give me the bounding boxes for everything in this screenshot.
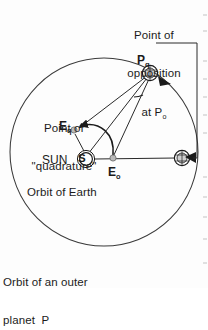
caption-opposition-line2: opposition [104,67,204,80]
sun-opposition-baseline [95,158,176,159]
scan-artifact [203,176,207,178]
earth-dot-opposition [110,155,116,161]
label-eq-subscript: q [67,126,72,135]
caption-point-of-opposition: Point of opposition at Po [104,3,204,145]
label-earth-opposition: Eo [108,166,121,179]
scan-artifact [203,60,207,62]
caption-orbit-of-earth: Orbit of Earth [27,186,97,199]
caption-opposition-subscript: o [162,113,166,121]
caption-outer-line2: planet P [3,314,153,327]
label-eo-subscript: o [116,172,121,181]
caption-opposition-line3: at Po [104,106,204,119]
scan-artifact [203,114,207,116]
scan-artifact [203,238,207,240]
caption-opposition-line1: Point of [104,29,204,42]
scan-artifact [203,216,207,218]
scan-artifact [203,196,207,198]
scan-artifact [203,14,207,16]
label-pq-letter: P [137,53,145,67]
label-sun-symbol: S [78,152,86,165]
label-eq-letter: E [59,119,67,133]
caption-opposition-prefix: at P [142,106,163,118]
label-eo-letter: E [108,165,116,179]
label-planet-quadrature: Pq [137,54,150,67]
caption-point-of-quadrature: Point of "quadrature" [24,96,104,199]
caption-outer-line1: Orbit of an outer [3,276,153,289]
label-sun-word: SUN [42,154,68,167]
label-earth-quadrature: Eq [59,120,72,133]
scan-artifact [203,78,207,80]
label-pq-subscript: q [145,60,150,69]
caption-orbit-of-outer-planet: Orbit of an outer planet P [3,250,153,330]
scan-artifact [203,30,207,32]
scan-artifact [203,96,207,98]
scan-artifact [203,132,207,134]
scan-artifact [203,262,207,264]
